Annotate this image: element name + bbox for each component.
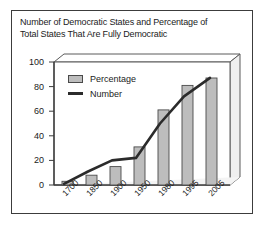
y-tick-label-80: 80 xyxy=(20,82,44,92)
y-tick-label-60: 60 xyxy=(20,106,44,116)
y-tick-label-20: 20 xyxy=(20,155,44,165)
y-tick-label-100: 100 xyxy=(20,57,44,67)
line-swatch-icon xyxy=(68,92,83,95)
legend-label-number: Number xyxy=(90,89,122,99)
y-axis-ticks xyxy=(49,62,54,185)
bar-swatch-icon xyxy=(68,75,83,83)
y-tick-label-0: 0 xyxy=(20,180,44,190)
bar-2005 xyxy=(206,78,217,185)
box-top-face xyxy=(54,54,240,62)
box-right-face xyxy=(230,54,240,185)
y-tick-label-40: 40 xyxy=(20,131,44,141)
legend-entry-number: Number xyxy=(68,87,136,100)
chart-figure: Number of Democratic States and Percenta… xyxy=(11,10,253,214)
chart-legend: Percentage Number xyxy=(68,72,136,102)
plot-area: 100 80 60 40 20 0 1700 1850 1900 1950 19… xyxy=(12,11,254,215)
bar-1995 xyxy=(182,85,193,185)
legend-label-percentage: Percentage xyxy=(90,74,136,84)
legend-entry-percentage: Percentage xyxy=(68,72,136,85)
